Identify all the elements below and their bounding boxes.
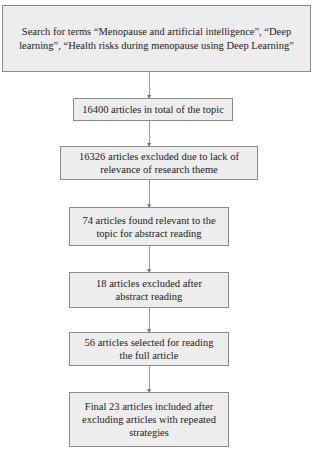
arrow-3 — [149, 180, 150, 207]
step-selected-full: 56 articles selected for reading the ful… — [69, 332, 229, 366]
arrow-4 — [149, 246, 150, 272]
step-selected-full-text: 56 articles selected for reading the ful… — [80, 336, 218, 362]
step-excluded-relevance-text: 16326 articles excluded due to lack of r… — [65, 150, 253, 176]
step-total-articles: 16400 articles in total of the topic — [73, 98, 233, 121]
arrow-2 — [149, 121, 150, 146]
step-search-terms-text: Search for terms “Menopause and artifici… — [9, 25, 304, 53]
step-search-terms: Search for terms “Menopause and artifici… — [2, 5, 311, 72]
step-relevant-articles: 74 articles found relevant to the topic … — [69, 207, 229, 246]
step-excluded-abstract: 18 articles excluded after abstract read… — [69, 272, 229, 308]
step-total-articles-text: 16400 articles in total of the topic — [82, 103, 224, 116]
step-excluded-abstract-text: 18 articles excluded after abstract read… — [80, 277, 218, 303]
step-excluded-relevance: 16326 articles excluded due to lack of r… — [60, 146, 258, 180]
step-final-included-text: Final 23 articles included after excludi… — [78, 400, 220, 439]
arrow-1 — [149, 72, 150, 98]
step-relevant-articles-text: 74 articles found relevant to the topic … — [80, 214, 218, 240]
step-final-included: Final 23 articles included after excludi… — [69, 392, 229, 447]
arrow-5 — [149, 308, 150, 332]
arrow-6 — [149, 366, 150, 392]
